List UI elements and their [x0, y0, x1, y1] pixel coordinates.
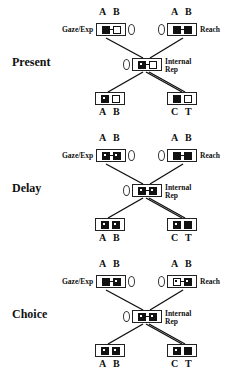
gaze-recurrent-loop-icon — [128, 24, 135, 35]
stim-cell-b — [112, 95, 120, 103]
gaze-cell-b — [113, 278, 121, 286]
gaze-exp-label: Gaze/Exp — [62, 152, 93, 160]
stim-cell-a — [101, 221, 109, 229]
reach-label: Reach — [200, 278, 220, 286]
gaze-cell-a — [102, 152, 110, 160]
internal-rep-recurrent-loop-icon — [123, 59, 130, 70]
gaze-letter-b: B — [113, 6, 120, 17]
gaze-cell-b — [113, 152, 121, 160]
internal-cell-a — [138, 61, 146, 69]
reach-unit — [167, 23, 197, 36]
reach-recurrent-loop-icon — [158, 24, 165, 35]
internal-rep-unit — [132, 58, 162, 71]
gaze-recurrent-loop-icon — [128, 276, 135, 287]
stim-letter-b: B — [113, 106, 120, 117]
stimulus-ab-unit — [95, 218, 125, 231]
stim-letter-a: A — [99, 358, 106, 369]
internal-rep-label-line2: Rep — [165, 192, 178, 200]
panel-choice: Choice A B Gaze/Exp A B Reach Internal R… — [0, 252, 233, 379]
stimulus-ab-unit — [95, 92, 125, 105]
stim-cell-t — [184, 221, 192, 229]
reach-letter-b: B — [185, 6, 192, 17]
stim-letter-b: B — [113, 358, 120, 369]
condition-label: Delay — [12, 181, 41, 196]
internal-rep-unit — [132, 310, 162, 323]
stim-cell-a — [101, 347, 109, 355]
gaze-cell-a — [102, 278, 110, 286]
stim-letter-c: C — [171, 106, 178, 117]
stim-cell-a — [101, 95, 109, 103]
reach-label: Reach — [200, 152, 220, 160]
stim-cell-c — [173, 347, 181, 355]
gaze-letter-a: A — [99, 258, 106, 269]
stim-cell-c — [173, 95, 181, 103]
panel-delay: Delay A B Gaze/Exp A B Reach Internal Re… — [0, 126, 233, 253]
gaze-cell-b — [113, 26, 121, 34]
internal-rep-label-line2: Rep — [165, 318, 178, 326]
reach-cell-a — [173, 152, 181, 160]
internal-rep-recurrent-loop-icon — [123, 185, 130, 196]
gaze-recurrent-loop-icon — [128, 150, 135, 161]
reach-cell-b — [184, 26, 192, 34]
stimulus-ab-unit — [95, 344, 125, 357]
internal-cell-b — [149, 313, 157, 321]
stimulus-ct-unit — [167, 344, 197, 357]
stim-letter-c: C — [171, 232, 178, 243]
internal-rep-recurrent-loop-icon — [123, 311, 130, 322]
reach-label: Reach — [200, 26, 220, 34]
reach-cell-b — [184, 152, 192, 160]
reach-letter-a: A — [171, 258, 178, 269]
reach-letter-a: A — [171, 6, 178, 17]
gaze-cell-a — [102, 26, 110, 34]
condition-label: Present — [12, 55, 50, 70]
stim-cell-b — [112, 347, 120, 355]
reach-cell-a — [173, 26, 181, 34]
reach-cell-a — [173, 278, 181, 286]
gaze-letter-b: B — [113, 258, 120, 269]
stim-letter-t: T — [185, 106, 192, 117]
gaze-exp-label: Gaze/Exp — [62, 26, 93, 34]
panel-present: Present A B Gaze/Exp A B Reach Internal … — [0, 0, 233, 127]
stim-letter-a: A — [99, 106, 106, 117]
reach-unit — [167, 149, 197, 162]
gaze-letter-a: A — [99, 132, 106, 143]
reach-recurrent-loop-icon — [158, 150, 165, 161]
gaze-exp-label: Gaze/Exp — [62, 278, 93, 286]
stim-letter-b: B — [113, 232, 120, 243]
gaze-exp-unit — [96, 23, 126, 36]
reach-cell-b — [184, 278, 192, 286]
stim-letter-a: A — [99, 232, 106, 243]
condition-label: Choice — [12, 307, 47, 322]
internal-rep-unit — [132, 184, 162, 197]
internal-cell-a — [138, 313, 146, 321]
internal-cell-a — [138, 187, 146, 195]
stim-letter-t: T — [185, 232, 192, 243]
stim-cell-b — [112, 221, 120, 229]
stim-letter-t: T — [185, 358, 192, 369]
stim-cell-t — [184, 347, 192, 355]
stim-letter-c: C — [171, 358, 178, 369]
stim-cell-t — [184, 95, 192, 103]
reach-recurrent-loop-icon — [158, 276, 165, 287]
reach-unit — [167, 275, 197, 288]
gaze-letter-b: B — [113, 132, 120, 143]
stimulus-ct-unit — [167, 92, 197, 105]
gaze-exp-unit — [96, 275, 126, 288]
internal-rep-label-line2: Rep — [165, 66, 178, 74]
internal-cell-b — [149, 61, 157, 69]
gaze-exp-unit — [96, 149, 126, 162]
reach-letter-b: B — [185, 132, 192, 143]
reach-letter-a: A — [171, 132, 178, 143]
reach-letter-b: B — [185, 258, 192, 269]
stim-cell-c — [173, 221, 181, 229]
gaze-letter-a: A — [99, 6, 106, 17]
stimulus-ct-unit — [167, 218, 197, 231]
internal-cell-b — [149, 187, 157, 195]
